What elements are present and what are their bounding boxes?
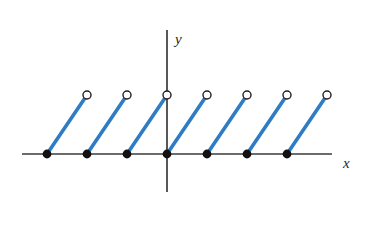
open-endpoint-circle bbox=[203, 91, 211, 99]
open-endpoint-circle bbox=[243, 91, 251, 99]
open-endpoint-circle bbox=[163, 91, 171, 99]
graph-figure: x y bbox=[0, 0, 366, 230]
function-segment bbox=[287, 95, 327, 154]
function-segment bbox=[207, 95, 247, 154]
function-segment bbox=[87, 95, 127, 154]
segments-group bbox=[47, 95, 327, 154]
x-axis-label: x bbox=[342, 155, 350, 171]
closed-endpoint-dot bbox=[243, 150, 252, 159]
closed-endpoint-dot bbox=[43, 150, 52, 159]
open-endpoint-circle bbox=[83, 91, 91, 99]
closed-endpoint-dot bbox=[203, 150, 212, 159]
open-endpoint-circle bbox=[123, 91, 131, 99]
function-segment bbox=[127, 95, 167, 154]
function-segment bbox=[247, 95, 287, 154]
axes-group bbox=[22, 30, 332, 192]
y-axis-label: y bbox=[173, 31, 182, 47]
closed-endpoint-dot bbox=[83, 150, 92, 159]
open-points-group bbox=[83, 91, 331, 99]
closed-endpoint-dot bbox=[123, 150, 132, 159]
closed-endpoint-dot bbox=[163, 150, 172, 159]
function-segment bbox=[47, 95, 87, 154]
sawtooth-plot: x y bbox=[0, 0, 366, 230]
function-segment bbox=[167, 95, 207, 154]
open-endpoint-circle bbox=[323, 91, 331, 99]
open-endpoint-circle bbox=[283, 91, 291, 99]
closed-endpoint-dot bbox=[283, 150, 292, 159]
